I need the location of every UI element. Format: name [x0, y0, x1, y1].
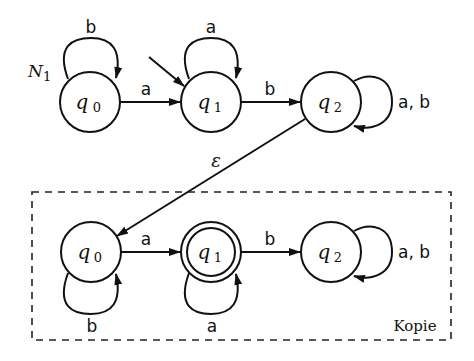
state-bottom-q2: q 2 — [301, 222, 361, 282]
copy-box-label: Kopie — [393, 317, 436, 335]
transition-label: b — [87, 316, 98, 336]
transition-top-q2-self: a, b — [354, 77, 430, 128]
svg-text:q: q — [76, 90, 89, 114]
state-bottom-q0: q 0 — [61, 222, 121, 282]
transition-top-q1-q2: b — [241, 79, 300, 102]
transition-bottom-q2-self: a, b — [354, 227, 430, 278]
transition-epsilon: ε — [117, 119, 305, 236]
transition-label: a — [141, 229, 151, 249]
svg-text:q: q — [198, 240, 211, 264]
state-top-q0: q 0 — [60, 72, 120, 132]
transition-label: a — [141, 79, 151, 99]
transition-label: b — [265, 229, 276, 249]
svg-text:q: q — [318, 90, 331, 114]
transition-label: a, b — [398, 242, 430, 262]
automaton-name: N1 — [27, 61, 51, 84]
transition-label: b — [265, 79, 276, 99]
svg-text:0: 0 — [93, 100, 101, 115]
state-top-q1: q 1 — [181, 72, 241, 132]
transition-label: b — [86, 17, 97, 37]
transition-top-q0-q1: a — [121, 79, 180, 102]
svg-text:1: 1 — [214, 250, 222, 265]
svg-text:q: q — [198, 90, 211, 114]
start-arrow — [149, 57, 184, 86]
transition-label: a, b — [398, 92, 430, 112]
transition-bottom-q0-q1: a — [121, 229, 180, 252]
state-bottom-q1-accepting: q 1 — [181, 222, 241, 282]
svg-text:2: 2 — [334, 250, 342, 265]
svg-text:1: 1 — [214, 100, 222, 115]
svg-text:q: q — [318, 240, 331, 264]
transition-top-q1-self: a — [185, 17, 238, 79]
transition-bottom-q1-q2: b — [241, 229, 300, 252]
transition-label: a — [206, 17, 216, 37]
svg-text:q: q — [78, 240, 91, 264]
svg-text:0: 0 — [94, 250, 102, 265]
nfa-diagram: Kopie N1 b a a b a, b q 0 q 1 q — [0, 0, 474, 361]
transition-top-q0-self: b — [64, 17, 118, 79]
state-top-q2: q 2 — [301, 72, 361, 132]
accepting-ring — [187, 228, 235, 276]
svg-text:2: 2 — [334, 100, 342, 115]
transition-label: a — [207, 316, 217, 336]
epsilon-label: ε — [211, 150, 221, 171]
